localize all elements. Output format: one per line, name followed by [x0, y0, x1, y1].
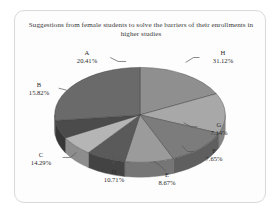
pie-label-d-percent: 10.71%	[93, 176, 135, 184]
pie-slice-h	[55, 67, 140, 120]
pie-label-d: D 10.71%	[93, 168, 135, 184]
pie-label-c-percent: 14.29%	[19, 159, 63, 167]
pie-chart-plot-area	[15, 11, 265, 202]
pie-label-f-percent: 7.65%	[193, 155, 235, 163]
leader-line-a	[110, 58, 126, 62]
leader-line-h	[186, 58, 200, 63]
pie-label-e-percent: 8.67%	[147, 179, 187, 187]
pie-label-h-key: H	[199, 49, 247, 57]
pie-label-h: H 31.12%	[199, 49, 247, 65]
pie-label-d-key: D	[93, 168, 135, 176]
pie-label-b-key: B	[17, 81, 61, 89]
pie-label-b-percent: 15.82%	[17, 89, 61, 97]
pie-label-e: E 8.67%	[147, 171, 187, 187]
pie-label-f-key: F	[193, 147, 235, 155]
pie-label-c: C 14.29%	[19, 151, 63, 167]
chart-frame: Suggestions from female students to solv…	[14, 10, 266, 203]
pie-label-b: B 15.82%	[17, 81, 61, 97]
pie-label-a: A 20.41%	[65, 49, 109, 65]
pie-label-e-key: E	[147, 171, 187, 179]
pie-label-a-percent: 20.41%	[65, 57, 109, 65]
pie-label-h-percent: 31.12%	[199, 57, 247, 65]
pie-label-f: F 7.65%	[193, 147, 235, 163]
pie-label-g: G 7.14%	[197, 121, 241, 137]
pie-label-g-key: G	[197, 121, 241, 129]
pie-label-c-key: C	[19, 151, 63, 159]
pie-chart-svg	[15, 11, 265, 202]
pie-label-a-key: A	[65, 49, 109, 57]
pie-label-g-percent: 7.14%	[197, 129, 241, 137]
